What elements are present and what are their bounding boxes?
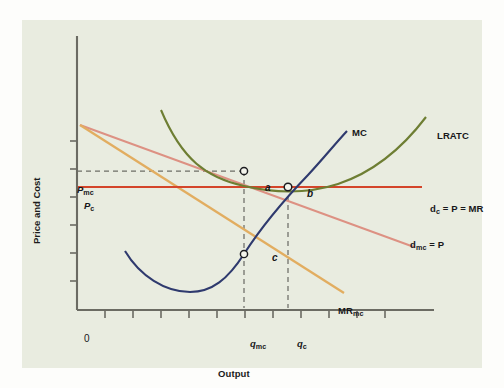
curve-label-mrmc-main: MR — [338, 305, 353, 316]
curve-label-mrmc: MRmc — [338, 305, 364, 316]
point-label-b: b — [307, 188, 313, 199]
curve-label-dmc-tail: = P — [427, 239, 445, 250]
y-tick-label-pmc: Pmc — [77, 184, 94, 195]
axis-lines — [77, 36, 434, 310]
curve-label-mc: MC — [352, 127, 367, 138]
y-tick-label-pc: Pc — [84, 200, 94, 211]
figure-root: Price and Cost Output 0 Pmc Pc qmc qc MC… — [0, 0, 504, 388]
curve-label-dmc: dmc = P — [410, 239, 444, 250]
x-tick-label-qmc-symbol: q — [250, 338, 256, 349]
y-tick-label-pc-sub: c — [90, 204, 94, 213]
x-tick-label-qmc: qmc — [250, 338, 266, 349]
curve-mrmc — [80, 125, 344, 293]
point-label-c: c — [272, 252, 278, 263]
y-axis-ticks — [70, 141, 77, 281]
x-tick-label-qc-sub: c — [303, 342, 307, 351]
point-marker-c — [240, 250, 247, 257]
x-axis-title: Output — [218, 368, 250, 379]
curve-mc — [125, 131, 347, 292]
curve-lratc — [161, 110, 426, 191]
x-tick-label-qc-symbol: q — [297, 338, 303, 349]
chart-panel: Price and Cost Output 0 Pmc Pc qmc qc MC… — [22, 20, 482, 368]
curve-label-lratc: LRATC — [437, 130, 469, 141]
curve-label-mrmc-sub: mc — [353, 309, 364, 318]
y-axis-title: Price and Cost — [30, 148, 44, 248]
x-tick-label-qc: qc — [297, 338, 307, 349]
y-axis-title-text: Price and Cost — [31, 177, 42, 244]
curve-label-dc-sub: c — [436, 207, 440, 216]
curve-label-dc-tail: = P = MR — [440, 203, 484, 214]
point-marker-a — [240, 167, 247, 174]
x-tick-label-qmc-sub: mc — [256, 342, 266, 351]
y-tick-label-pmc-sub: mc — [83, 188, 93, 197]
point-marker-b — [284, 183, 292, 191]
point-label-a: a — [265, 182, 271, 193]
curve-label-dc: dc = P = MR — [430, 203, 484, 214]
curve-label-dmc-sub: mc — [416, 243, 427, 252]
origin-label: 0 — [84, 333, 90, 344]
